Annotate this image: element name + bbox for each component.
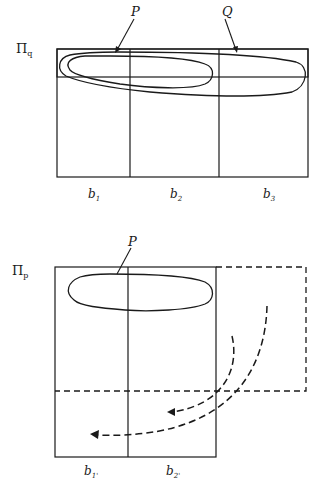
bottom-frame <box>55 267 216 457</box>
label-b3: b3 <box>263 187 276 203</box>
label-b1-prime: b1' <box>84 464 98 480</box>
leader-p-top <box>117 19 134 50</box>
label-b2: b2 <box>170 187 183 203</box>
arrow-path-outer <box>96 306 267 435</box>
label-b1: b1 <box>88 187 100 203</box>
space-label-pi-p: Πp <box>12 263 28 280</box>
curve-p-bottom <box>68 274 212 311</box>
top-frame <box>57 49 308 177</box>
bottom-panel: Πp P b1' b2' <box>12 234 306 480</box>
arrow-path-inner <box>172 336 234 412</box>
label-q-top: Q <box>222 4 233 19</box>
leader-p-bottom <box>117 248 131 274</box>
space-label-pi-q: Πq <box>16 41 32 58</box>
label-p-bottom: P <box>127 234 137 249</box>
label-b2-prime: b2' <box>166 464 180 480</box>
arrowhead-inner <box>167 408 175 416</box>
leader-q-top <box>225 19 236 50</box>
arrowhead-outer <box>90 430 99 439</box>
label-p-top: P <box>130 4 140 19</box>
diagram-canvas: Πq P Q b1 b2 b3 Πp <box>0 0 318 484</box>
top-panel: Πq P Q b1 b2 b3 <box>16 4 308 203</box>
dashed-extension <box>55 267 306 391</box>
